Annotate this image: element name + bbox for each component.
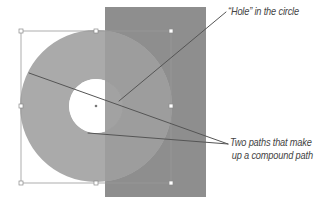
compound-path-illustration	[0, 0, 316, 207]
handle-bottom-middle[interactable]	[94, 181, 98, 185]
handle-bottom-right[interactable]	[169, 181, 173, 185]
handle-middle-left[interactable]	[19, 104, 23, 108]
handle-top-left[interactable]	[19, 29, 23, 33]
annotation-hole-label: “Hole” in the circle	[228, 5, 299, 18]
annotation-compound-path-line2: up a compound path	[230, 149, 313, 162]
annotation-compound-path-line1: Two paths that make	[230, 136, 313, 149]
handle-middle-right[interactable]	[169, 104, 173, 108]
center-point-icon	[95, 105, 98, 108]
annotation-compound-path-label: Two paths that make up a compound path	[230, 136, 313, 162]
handle-bottom-left[interactable]	[19, 181, 23, 185]
handle-top-middle[interactable]	[94, 29, 98, 33]
handle-top-right[interactable]	[169, 29, 173, 33]
